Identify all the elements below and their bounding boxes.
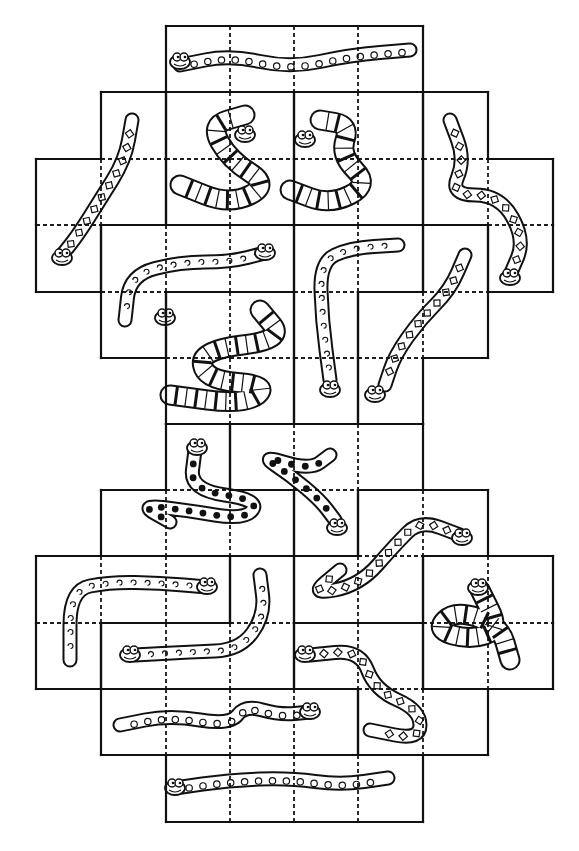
snake-bands — [432, 579, 516, 660]
snake-puzzle-board — [0, 0, 579, 851]
snake-spots — [165, 778, 388, 795]
snake-dots — [146, 439, 257, 522]
snake-drawings — [52, 49, 524, 795]
piece-outlines — [36, 26, 553, 822]
snake-spots — [120, 703, 320, 727]
snake-diamonds — [52, 120, 134, 265]
snake-dots — [269, 455, 347, 535]
snake-bands — [155, 309, 282, 411]
snake-bands — [180, 110, 269, 209]
snake-spots — [170, 49, 410, 69]
snake-diamonds — [365, 255, 465, 402]
snake-diamonds — [295, 646, 424, 740]
